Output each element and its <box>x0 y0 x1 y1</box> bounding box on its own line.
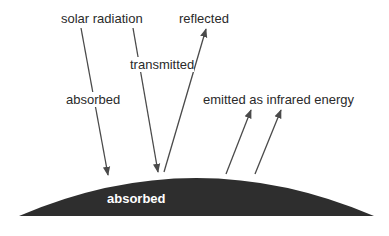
emitted-infrared-label: emitted as infrared energy <box>203 93 354 106</box>
radiation-diagram: solar radiation reflected transmitted ab… <box>0 0 389 236</box>
transmitted-label: transmitted <box>130 57 194 72</box>
solar-radiation-label: solar radiation <box>60 12 144 25</box>
diagram-graphic <box>0 0 389 236</box>
absorbed-ground-label: absorbed <box>107 192 166 205</box>
reflected-label: reflected <box>179 12 229 25</box>
reflected-arrow <box>164 29 206 172</box>
infrared-arrow-2 <box>255 110 281 174</box>
infrared-arrow-1 <box>226 110 251 174</box>
transmitted-arrow <box>133 28 158 172</box>
absorbed-atmosphere-label: absorbed <box>66 92 120 107</box>
earth-surface <box>19 178 374 216</box>
